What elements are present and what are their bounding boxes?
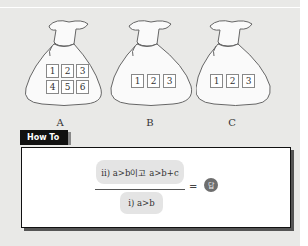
bag-icon — [196, 16, 286, 116]
bag-a: 1 2 3 4 5 6 A — [14, 16, 104, 116]
number-card: 1 — [210, 74, 223, 88]
page: … 1 2 3 4 5 6 A 1 2 3 — [0, 0, 300, 246]
number-card: 1 — [131, 74, 144, 88]
bag-icon — [109, 16, 199, 116]
bag-b: 1 2 3 B — [109, 16, 199, 116]
answer-badge-icon: 답 — [204, 178, 218, 192]
equals-sign: = — [189, 181, 197, 192]
bag-label: C — [222, 117, 242, 128]
denominator-pill: i) a>b — [120, 192, 163, 214]
numerator-pill: ii) a>b이고 a>b+c — [96, 160, 184, 184]
bag-label: A — [50, 117, 70, 128]
card-row: 1 2 3 — [210, 74, 258, 88]
fraction-line — [95, 189, 185, 190]
number-card: 1 — [46, 64, 59, 78]
card-grid: 1 2 3 4 5 6 — [46, 64, 91, 94]
number-card: 5 — [61, 80, 74, 94]
number-card: 3 — [242, 74, 255, 88]
number-card: 2 — [147, 74, 160, 88]
number-card: 3 — [76, 64, 89, 78]
number-card: 2 — [61, 64, 74, 78]
number-card: 3 — [163, 74, 176, 88]
number-card: 2 — [226, 74, 239, 88]
cropped-header-text: … — [18, 0, 118, 3]
card-row: 1 2 3 — [131, 74, 179, 88]
divider — [0, 7, 300, 8]
bag-label: B — [140, 117, 160, 128]
number-card: 6 — [76, 80, 89, 94]
number-card: 4 — [46, 80, 59, 94]
bag-c: 1 2 3 C — [196, 16, 286, 116]
howto-tab: How To — [20, 130, 68, 145]
